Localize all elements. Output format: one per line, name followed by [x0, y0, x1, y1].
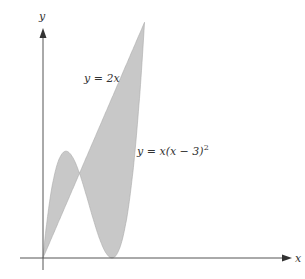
line-equation-label: y = 2x — [83, 72, 120, 85]
plot-area: y x y = 2x y = x(x − 3)2 — [0, 0, 305, 279]
y-axis-arrow-icon — [40, 28, 47, 38]
cubic-equation-label: y = x(x − 3)2 — [136, 143, 209, 158]
y-axis-label: y — [38, 10, 46, 23]
x-axis-arrow-icon — [282, 255, 292, 262]
shaded-region — [43, 22, 145, 258]
x-axis-label: x — [295, 252, 302, 265]
